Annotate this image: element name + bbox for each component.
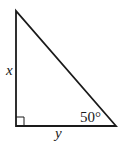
horizontal-leg-label: y [55,126,62,141]
angle-label: 50° [80,110,101,125]
vertical-leg-label: x [6,63,13,78]
triangle-outline [16,11,116,126]
right-triangle-diagram: x y 50° [0,0,123,147]
right-angle-marker [16,117,24,126]
